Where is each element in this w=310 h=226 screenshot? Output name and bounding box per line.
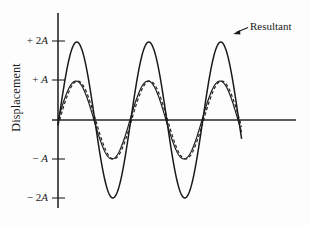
wave-superposition-chart: Displacement + 2A + A − A − 2A Resultant: [0, 0, 310, 226]
resultant-arrowhead-icon: [233, 30, 240, 34]
tick-label-plus-2a: + 2A: [8, 34, 48, 46]
resultant-annotation-label: Resultant: [250, 20, 292, 32]
tick-label-minus-2a: − 2A: [8, 191, 48, 203]
tick-label-minus-a: − A: [8, 152, 48, 164]
y-axis-title: Displacement: [9, 38, 24, 158]
tick-label-plus-a: + A: [8, 73, 48, 85]
